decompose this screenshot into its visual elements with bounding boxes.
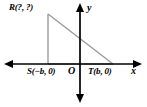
geometry-diagram-svg — [0, 0, 147, 107]
vertex-label-r: R(?, ?) — [9, 3, 33, 12]
y-axis — [76, 3, 84, 103]
y-axis-arrow-up-icon — [76, 3, 84, 12]
origin-label: O — [68, 66, 75, 76]
x-axis-label: x — [131, 66, 136, 76]
y-axis-arrow-down-icon — [76, 94, 84, 103]
vertex-label-s: S(−b, 0) — [27, 67, 55, 76]
vertex-label-t: T(b, 0) — [88, 67, 112, 76]
x-axis-arrow-left-icon — [4, 60, 13, 68]
coordinate-plane-figure: R(?, ?) S(−b, 0) T(b, 0) O x y — [0, 0, 147, 107]
y-axis-label: y — [87, 3, 91, 13]
